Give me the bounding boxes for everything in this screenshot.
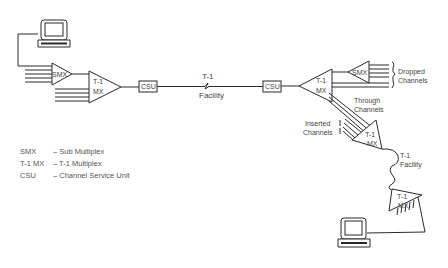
smx-left-input-channels	[25, 70, 52, 82]
legend-item-t1mx: T-1 MX – T-1 Multiplex	[20, 158, 130, 170]
svg-text:Facility: Facility	[400, 161, 422, 169]
svg-text:Through: Through	[354, 97, 380, 105]
svg-text:Channels: Channels	[303, 129, 333, 136]
svg-text:SMX: SMX	[352, 69, 368, 76]
svg-text:SMX: SMX	[52, 71, 68, 78]
svg-text:T-1: T-1	[316, 77, 326, 84]
svg-text:T-1: T-1	[397, 193, 407, 200]
legend-item-smx: SMX – Sub Multiplex	[20, 146, 130, 158]
network-diagram: SMX T-1 MX CSU T-1 Facility CSU T-1 MX	[0, 0, 448, 268]
smx-left: SMX	[52, 63, 72, 85]
legend-abbr: SMX	[20, 146, 53, 158]
legend-desc: – Channel Service Unit	[53, 170, 130, 182]
t1mx-left-input-channels	[55, 89, 89, 101]
csu-left: CSU	[139, 81, 157, 92]
csu-right: CSU	[263, 81, 281, 92]
svg-text:Channels: Channels	[354, 106, 384, 113]
svg-text:CSU: CSU	[141, 83, 156, 90]
t1-facility-top: T-1 Facility	[157, 72, 263, 100]
svg-text:Dropped: Dropped	[398, 68, 425, 76]
svg-text:T-1: T-1	[202, 72, 214, 81]
svg-text:MX: MX	[93, 88, 104, 95]
terminal-top-left	[38, 20, 70, 47]
svg-text:T-1: T-1	[400, 152, 410, 159]
t1mx-mid: T-1 MX	[299, 69, 332, 102]
legend-abbr: T-1 MX	[20, 158, 53, 170]
legend-desc: – Sub Multiplex	[53, 146, 104, 158]
inserted-channels-annotation: Inserted Channels	[303, 120, 340, 136]
terminal-bottom-right	[338, 218, 370, 247]
legend-item-csu: CSU – Channel Service Unit	[20, 170, 130, 182]
t1-facility-lower: T-1 Facility	[382, 149, 422, 190]
legend: SMX – Sub Multiplex T-1 MX – T-1 Multipl…	[20, 146, 130, 182]
smx-right: SMX	[348, 61, 369, 83]
legend-desc: – T-1 Multiplex	[53, 158, 102, 170]
svg-text:MX: MX	[316, 87, 327, 94]
svg-text:MX: MX	[398, 202, 409, 209]
svg-text:T-1: T-1	[93, 78, 103, 85]
through-channels-label: Through Channels	[354, 97, 384, 113]
svg-text:MX: MX	[367, 140, 378, 147]
legend-abbr: CSU	[20, 170, 53, 182]
svg-text:T-1: T-1	[365, 131, 375, 138]
t1mx-left: T-1 MX	[89, 71, 121, 103]
svg-text:Facility: Facility	[199, 91, 224, 100]
dropped-channels-annotation: Dropped Channels	[392, 62, 428, 88]
svg-text:Inserted: Inserted	[305, 120, 330, 127]
svg-text:CSU: CSU	[265, 83, 280, 90]
svg-text:Channels: Channels	[398, 77, 428, 84]
